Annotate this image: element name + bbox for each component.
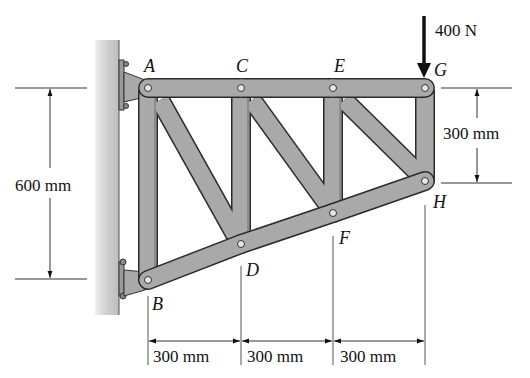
label-b: B bbox=[152, 294, 163, 314]
label-c: C bbox=[236, 56, 249, 76]
load-arrow: 400 N bbox=[417, 16, 477, 78]
joint-pins bbox=[145, 85, 429, 284]
dim-span-1: 300 mm bbox=[153, 347, 209, 366]
pin-b bbox=[145, 277, 152, 284]
wall bbox=[95, 40, 119, 315]
label-e: E bbox=[333, 56, 345, 76]
pin-c bbox=[238, 85, 245, 92]
label-g: G bbox=[434, 60, 447, 80]
pin-a bbox=[145, 85, 152, 92]
label-h: H bbox=[432, 192, 447, 212]
dim-right-height: 300 mm bbox=[443, 124, 499, 143]
pin-h bbox=[422, 178, 429, 185]
pin-g bbox=[422, 85, 429, 92]
truss-figure: A B C D E F G H 400 N 600 mm 300 mm bbox=[0, 0, 530, 378]
dim-span-3: 300 mm bbox=[340, 347, 396, 366]
load-label: 400 N bbox=[435, 21, 477, 40]
pin-d bbox=[238, 241, 245, 248]
dim-left-height: 600 mm bbox=[15, 176, 71, 195]
dim-span-2: 300 mm bbox=[247, 347, 303, 366]
label-a: A bbox=[143, 56, 156, 76]
pin-e bbox=[330, 85, 337, 92]
label-f: F bbox=[338, 228, 351, 248]
truss-members bbox=[148, 88, 425, 280]
label-d: D bbox=[245, 260, 259, 280]
pin-f bbox=[330, 210, 337, 217]
